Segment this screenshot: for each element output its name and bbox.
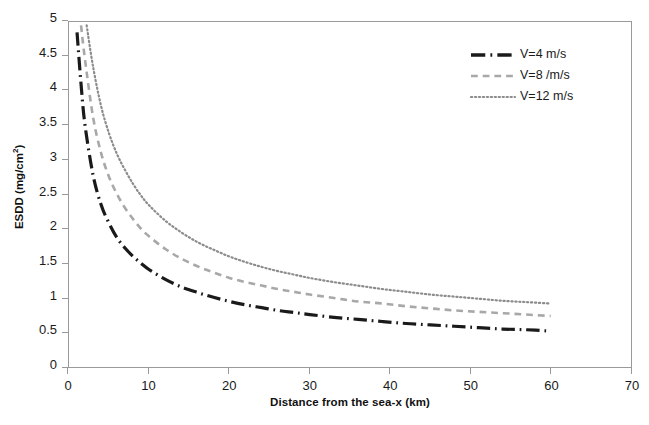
x-axis-tick-label: 20 [209,379,249,392]
legend: V=4 m/sV=8 /m/sV=12 m/s [470,44,630,107]
legend-item-label: V=12 m/s [520,90,573,103]
y-axis-tick-mark [62,20,68,21]
y-axis-tick-mark [62,89,68,90]
y-axis-tick-label: 3.5 [39,115,57,128]
y-axis-tick-label: 5 [50,11,57,24]
x-axis-title: Distance from the sea-x (km) [68,396,632,408]
y-axis-title-text: ESDD (mg/cm [13,153,25,229]
x-axis-tick-label: 30 [290,379,330,392]
y-axis-tick-mark [62,228,68,229]
y-axis-tick-mark [62,298,68,299]
y-axis-tick-label: 1 [50,289,57,302]
y-axis-title-exponent: 2 [11,149,20,153]
y-axis-tick-mark [62,332,68,333]
x-axis-tick-label: 60 [531,379,571,392]
x-axis-tick-mark [550,368,551,374]
legend-item-label: V=8 /m/s [520,69,570,82]
x-axis-tick-mark [67,368,68,374]
x-axis-tick-label: 70 [612,379,649,392]
x-axis-tick-label: 50 [451,379,491,392]
y-axis-tick-label: 4 [50,80,57,93]
legend-line-icon [470,90,516,104]
y-axis-tick-label: 0.5 [39,323,57,336]
y-axis-tick-mark [62,194,68,195]
x-axis-tick-mark [389,368,390,374]
y-axis-tick-label: 4.5 [39,46,57,59]
x-axis-tick-mark [470,368,471,374]
y-axis-title-suffix: ) [13,145,25,149]
legend-item[interactable]: V=12 m/s [470,86,630,107]
y-axis-tick-label: 1.5 [39,254,57,267]
x-axis-tick-mark [309,368,310,374]
y-axis-tick-label: 2 [50,219,57,232]
y-axis-tick-mark [62,263,68,264]
y-axis-tick-label: 2.5 [39,185,57,198]
y-axis-tick-mark [62,55,68,56]
legend-line-icon [470,48,516,62]
legend-item[interactable]: V=8 /m/s [470,65,630,86]
x-axis-tick-label: 40 [370,379,410,392]
legend-line-icon [470,69,516,83]
x-axis-tick-label: 10 [129,379,169,392]
legend-item[interactable]: V=4 m/s [470,44,630,65]
x-axis-tick-label: 0 [48,379,88,392]
x-axis-tick-mark [631,368,632,374]
x-axis-tick-mark [228,368,229,374]
y-axis-tick-label: 3 [50,150,57,163]
legend-item-label: V=4 m/s [520,48,566,61]
chart-figure: 00.511.522.533.544.55 010203040506070 Di… [0,0,649,425]
y-axis-title: ESDD (mg/cm2) [11,87,25,287]
y-axis-tick-mark [62,159,68,160]
y-axis-tick-mark [62,124,68,125]
x-axis-tick-mark [148,368,149,374]
